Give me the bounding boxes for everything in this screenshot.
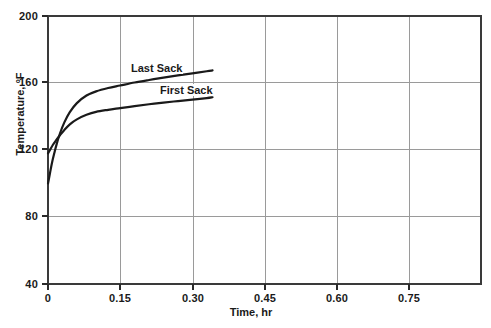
- chart-figure: 200 160 120 80 40 0 0.15 0.30 0.45 0.60 …: [0, 0, 491, 328]
- x-axis-title: Time, hr: [211, 306, 291, 318]
- x-tick-label-0.75: 0.75: [389, 292, 429, 304]
- x-tick-label-0.30: 0.30: [173, 292, 213, 304]
- y-tick-label-80: 80: [4, 210, 38, 222]
- x-tick-label-0.60: 0.60: [317, 292, 357, 304]
- series-label-first-sack: First Sack: [159, 84, 214, 96]
- y-tick-label-40: 40: [4, 278, 38, 290]
- x-axis-ticks: [48, 284, 409, 290]
- y-axis-ticks: [42, 16, 48, 284]
- y-axis-title-wrapper: Temperature, °F: [10, 39, 28, 189]
- x-tick-label-0.15: 0.15: [100, 292, 140, 304]
- y-axis-title: Temperature, °F: [14, 72, 26, 155]
- chart-plot-area: [0, 0, 491, 328]
- x-tick-label-0: 0: [28, 292, 68, 304]
- x-tick-label-0.45: 0.45: [245, 292, 285, 304]
- series-label-last-sack: Last Sack: [130, 62, 183, 74]
- y-tick-label-200: 200: [4, 10, 38, 22]
